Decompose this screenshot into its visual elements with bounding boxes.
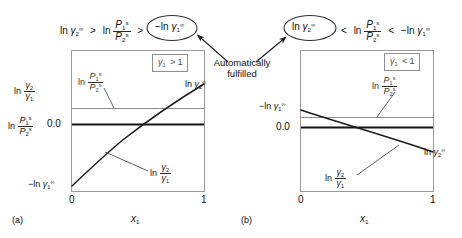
panel-a-caption: (a): [12, 215, 23, 225]
panel-a-curve-label: ln γ2γ1: [150, 163, 171, 184]
panel-a-x-tick-1: 1: [201, 195, 207, 205]
panel-a-curve-end-label: ln γ2∞: [185, 80, 206, 90]
panel-b-ineq-term-2: ln P1sP2s: [354, 25, 385, 36]
panel-b-caption: (b): [241, 215, 252, 225]
panel-a-inner-ps-label: ln P1sP2s: [78, 72, 103, 93]
panel-b-inequality: < ln P1sP2s < −ln γ1∞: [341, 20, 430, 43]
panel-b-circled-term: ln γ2∞: [292, 22, 315, 33]
automatically-fulfilled-callout: Automatically fulfilled: [203, 58, 281, 79]
panel-b-curve-end-label: ln γ2∞: [424, 148, 445, 158]
panel-a-ineq-op-2: >: [133, 25, 147, 36]
panel-b-y-label-neg-ln-gamma1: −ln γ1∞: [259, 102, 285, 112]
panel-a-x-axis-title: x1: [131, 213, 139, 225]
panel-b-x-tick-1: 1: [430, 195, 436, 205]
panel-b-plot-frame: [301, 51, 434, 192]
panel-a-y-label-zero: 0.0: [47, 119, 61, 129]
panel-a-ineq-op-1: >: [86, 25, 100, 36]
figure-root: ln γ2∞ > ln P1sP2s > −ln γ1∞ γ1 >1 ln γ2…: [0, 0, 462, 238]
panel-a-y-axis-title: ln γ2γ1: [14, 81, 35, 102]
panel-b-curve-label: ln γ2γ1: [325, 168, 346, 189]
panel-a-inequality: ln γ2∞ > ln P1sP2s >: [60, 20, 147, 43]
panel-b-x-axis-title: x1: [360, 213, 368, 225]
panel-a-x-tick-0: 0: [69, 195, 75, 205]
panel-a-ineq-term-1: ln γ2∞: [60, 25, 86, 36]
panel-b-condition-badge: γ1 <1: [384, 53, 420, 71]
panel-b-y-label-zero: 0.0: [276, 122, 290, 132]
panel-b-inner-ps-label: ln P1sP2s: [372, 76, 397, 97]
panel-b-x-tick-0: 0: [298, 195, 304, 205]
panel-b-ineq-op-2: <: [384, 25, 398, 36]
panel-a-condition-badge: γ1 >1: [152, 54, 188, 72]
callout-line-2: fulfilled: [203, 69, 281, 80]
panel-a-y-label-neg-ln-gamma1: −ln γ1∞: [28, 180, 54, 190]
panel-b-ineq-op-1: <: [341, 25, 351, 36]
panel-b-ineq-term-3: −ln γ1∞: [401, 25, 430, 36]
panel-a-y-label-ps: ln P1sP2s: [8, 116, 33, 137]
panel-a-circled-term: −ln γ1∞: [155, 22, 184, 33]
panel-a-ineq-term-2: ln P1sP2s: [103, 25, 134, 36]
